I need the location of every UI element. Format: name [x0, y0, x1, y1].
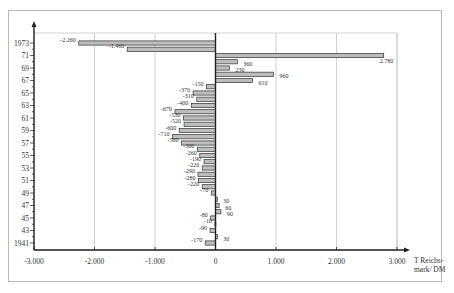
bar-1953 [202, 166, 215, 170]
x-axis-title: T Reichs- [414, 256, 444, 265]
y-tick-label: 65 [22, 89, 30, 98]
value-label: -80 [200, 212, 208, 218]
value-label: -300 [183, 143, 194, 149]
value-label: -710 [159, 131, 170, 137]
value-label: -70 [200, 187, 208, 193]
bar-1964 [197, 97, 216, 101]
value-label: -530 [169, 112, 180, 118]
y-tick-label: 47 [22, 201, 30, 210]
x-axis-title: mark/ DM [414, 265, 446, 274]
y-tick-label: 55 [22, 151, 30, 160]
bar-1973 [79, 41, 216, 45]
y-tick-label: 63 [22, 101, 30, 110]
y-tick-label: 1941 [14, 239, 29, 248]
value-label: 30 [223, 236, 229, 242]
x-tick-label: 0 [214, 257, 218, 266]
y-tick-label: 1973 [14, 39, 29, 48]
y-tick-label: 67 [22, 76, 30, 85]
bar-1943 [210, 228, 215, 232]
y-tick-label: 43 [22, 226, 30, 235]
value-label: -90 [199, 225, 207, 231]
value-label: 360 [243, 61, 252, 67]
y-tick-label: 69 [22, 64, 30, 73]
value-label: -400 [177, 100, 188, 106]
value-label: -310 [183, 93, 194, 99]
value-label: 230 [235, 67, 244, 73]
bar-1958 [173, 135, 216, 139]
bar-1966 [206, 85, 215, 89]
value-label: -1.460 [109, 43, 125, 49]
bar-1972 [127, 47, 215, 51]
value-label: 610 [258, 80, 267, 86]
bar-1970 [216, 60, 238, 64]
bar-1968 [216, 72, 274, 76]
value-label: -170 [191, 237, 202, 243]
value-label: -520 [170, 118, 181, 124]
value-label: -600 [165, 125, 176, 131]
x-tick-label: -1.000 [145, 257, 165, 266]
value-label: -290 [184, 168, 195, 174]
value-label: 30 [223, 198, 229, 204]
y-axis-arrow-icon [32, 21, 37, 27]
value-label: 60 [225, 205, 231, 211]
value-label: -370 [179, 87, 190, 93]
y-tick-label: 45 [22, 214, 30, 223]
y-tick-label: 49 [22, 189, 30, 198]
bar-1959 [179, 128, 215, 132]
y-tick-label: 57 [22, 139, 30, 148]
bar-1946 [216, 210, 221, 214]
value-label: 2.780 [380, 58, 394, 64]
value-label: -10 [204, 218, 212, 224]
bar-1971 [216, 53, 384, 57]
value-label: -2.260 [60, 37, 76, 43]
value-label: 960 [280, 73, 289, 79]
bar-1956 [197, 147, 215, 151]
value-label: -150 [192, 81, 203, 87]
value-label: -560 [168, 137, 179, 143]
bar-1961 [183, 116, 215, 120]
x-tick-label: 2.000 [328, 257, 345, 266]
value-label: -280 [185, 175, 196, 181]
value-label: -190 [190, 156, 201, 162]
y-tick-label: 53 [22, 164, 30, 173]
bar-1963 [191, 103, 215, 107]
bar-1941 [205, 241, 215, 245]
bar-1962 [175, 110, 216, 114]
value-label: 90 [227, 211, 233, 217]
bar-1955 [200, 153, 216, 157]
bar-1969 [216, 66, 230, 70]
bar-1952 [198, 172, 216, 176]
value-label: -670 [161, 106, 172, 112]
bar-chart: -2.260-1.4602.780360230960610-150-370-31… [0, 0, 454, 293]
x-tick-label: -3.000 [24, 257, 44, 266]
bar-1967 [216, 78, 253, 82]
x-tick-label: 1.000 [268, 257, 285, 266]
value-label: -220 [188, 181, 199, 187]
y-tick-label: 51 [22, 176, 30, 185]
bar-1951 [199, 178, 216, 182]
x-axis-arrow-icon [404, 248, 410, 253]
bar-1954 [204, 160, 215, 164]
x-tick-label: 3.000 [389, 257, 406, 266]
x-tick-label: -2.000 [85, 257, 105, 266]
value-label: -260 [186, 150, 197, 156]
y-tick-label: 59 [22, 126, 30, 135]
bar-1960 [184, 122, 215, 126]
value-label: -220 [188, 162, 199, 168]
y-tick-label: 71 [22, 51, 30, 60]
y-tick-label: 61 [22, 114, 30, 123]
bar-1965 [193, 91, 215, 95]
